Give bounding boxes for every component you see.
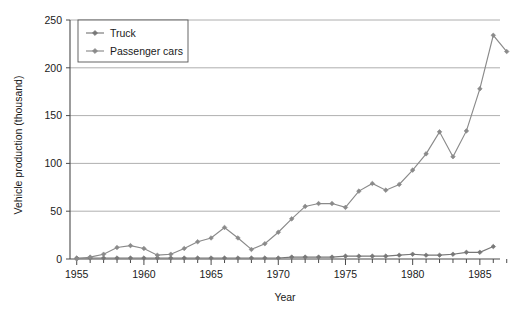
data-point [424, 253, 429, 258]
y-tick-labels: 050100150200250 [44, 14, 62, 265]
data-point [128, 256, 133, 261]
data-point [155, 253, 160, 258]
data-point [451, 252, 456, 257]
data-point [263, 256, 268, 261]
x-tick-label: 1955 [65, 268, 89, 280]
x-tick-label: 1975 [334, 268, 358, 280]
legend: TruckPassenger cars [78, 20, 188, 62]
y-tick-label: 50 [50, 205, 62, 217]
data-point [330, 201, 335, 206]
data-point [115, 256, 120, 261]
data-point [142, 246, 147, 251]
data-point [370, 254, 375, 259]
x-axis-title: Year [274, 291, 296, 303]
y-tick-label: 0 [56, 253, 62, 265]
data-point [236, 256, 241, 261]
x-tick-label: 1960 [132, 268, 156, 280]
data-point [168, 252, 173, 257]
y-axis-title: Vehicle production (thousand) [12, 76, 24, 215]
data-point [451, 154, 456, 159]
data-point [249, 256, 254, 261]
data-point [437, 253, 442, 258]
vehicle-production-line-chart: 050100150200250 195519601965197019751980… [0, 0, 518, 312]
chart-container: 050100150200250 195519601965197019751980… [0, 0, 518, 312]
data-point [195, 256, 200, 261]
data-point [343, 254, 348, 259]
data-point [397, 253, 402, 258]
data-point [195, 239, 200, 244]
data-point [115, 245, 120, 250]
y-tick-label: 200 [44, 62, 62, 74]
legend-label-truck: Truck [110, 27, 137, 39]
legend-label-passenger-cars: Passenger cars [110, 45, 183, 57]
data-point [182, 256, 187, 261]
data-point [357, 254, 362, 259]
data-point [101, 252, 106, 257]
data-point [464, 250, 469, 255]
data-point [370, 181, 375, 186]
y-tick-label: 150 [44, 109, 62, 121]
data-point [491, 244, 496, 249]
data-point [316, 201, 321, 206]
x-tick-label: 1970 [267, 268, 291, 280]
x-tick-labels: 1955196019651970197519801985 [65, 268, 492, 280]
y-axis [66, 20, 70, 259]
x-tick-label: 1965 [199, 268, 223, 280]
data-series [74, 33, 509, 261]
data-point [383, 254, 388, 259]
data-point [276, 256, 281, 261]
data-point [128, 243, 133, 248]
data-point [222, 256, 227, 261]
x-axis [70, 259, 507, 265]
data-point [410, 252, 415, 257]
y-tick-label: 100 [44, 157, 62, 169]
data-point [478, 87, 483, 92]
data-point [478, 250, 483, 255]
data-point [142, 256, 147, 261]
data-point [464, 129, 469, 134]
x-tick-label: 1980 [401, 268, 425, 280]
data-point [182, 246, 187, 251]
series-line-truck [77, 247, 494, 258]
data-point [209, 256, 214, 261]
y-tick-label: 250 [44, 14, 62, 26]
x-tick-label: 1985 [468, 268, 492, 280]
data-point [383, 188, 388, 193]
series-line-passenger-cars [77, 35, 507, 259]
